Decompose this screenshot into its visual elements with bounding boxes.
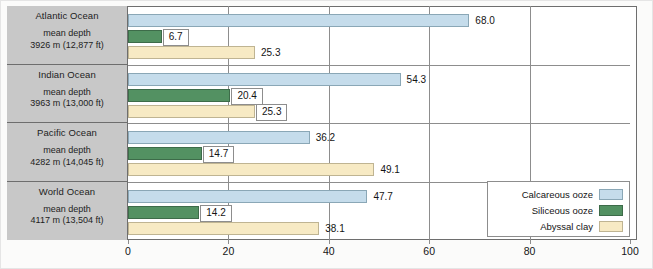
bar-value-label: 68.0 [471,16,494,26]
legend-item-label: Siliceous ooze [532,205,593,216]
mean-depth-label: mean depth [7,87,127,99]
legend-item-label: Calcareous ooze [522,189,593,200]
bar[interactable] [128,190,367,203]
legend-color-swatch [599,205,623,216]
bar-value-label: 20.4 [231,88,262,105]
bar[interactable] [128,30,162,43]
bar-value-label: 47.7 [369,192,392,202]
bar[interactable] [128,222,319,235]
bar[interactable] [128,89,230,102]
bar[interactable] [128,73,401,86]
bar-group: 68.06.725.3 [128,6,630,65]
legend-item[interactable]: Abyssal clay [488,218,623,234]
mean-depth-label: mean depth [7,145,127,157]
bar[interactable] [128,163,374,176]
bar-value-label: 25.3 [257,48,280,58]
mean-depth-value: 3926 m (12,877 ft) [7,40,127,52]
legend-color-swatch [599,189,623,200]
legend-item-label: Abyssal clay [540,221,593,232]
x-tick [128,240,129,244]
legend-color-swatch [599,221,623,232]
category-label-group: Indian Oceanmean depth3963 m (13,000 ft) [7,65,127,124]
bar[interactable] [128,46,255,59]
category-label-group: Pacific Oceanmean depth4282 m (14,045 ft… [7,123,127,182]
mean-depth-label: mean depth [7,204,127,216]
x-tick [630,240,631,244]
ocean-name: World Ocean [7,182,127,197]
bar-value-label: 6.7 [163,29,189,46]
ocean-name: Indian Ocean [7,65,127,80]
x-axis: 020406080100 [128,240,630,260]
bar-value-label: 25.3 [256,104,287,121]
x-tick-label: 40 [323,245,335,257]
mean-depth-block: mean depth3926 m (12,877 ft) [7,28,127,51]
bar[interactable] [128,206,199,219]
mean-depth-value: 4117 m (13,504 ft) [7,215,127,227]
bar-value-label: 36.2 [312,133,335,143]
bar[interactable] [128,14,469,27]
bar-value-label: 49.1 [376,165,399,175]
x-tick-label: 20 [223,245,235,257]
bar-group: 54.320.425.3 [128,65,630,124]
mean-depth-value: 4282 m (14,045 ft) [7,157,127,169]
bar[interactable] [128,131,310,144]
ocean-name: Atlantic Ocean [7,6,127,21]
chart-legend: Calcareous oozeSiliceous oozeAbyssal cla… [487,181,630,237]
mean-depth-block: mean depth4282 m (14,045 ft) [7,145,127,168]
x-tick [429,240,430,244]
bar[interactable] [128,147,202,160]
ocean-name: Pacific Ocean [7,123,127,138]
legend-item[interactable]: Siliceous ooze [488,202,623,218]
x-tick [228,240,229,244]
x-tick-label: 60 [423,245,435,257]
chart-page: Atlantic Oceanmean depth3926 m (12,877 f… [0,0,653,269]
mean-depth-value: 3963 m (13,000 ft) [7,98,127,110]
mean-depth-block: mean depth4117 m (13,504 ft) [7,204,127,227]
x-tick [530,240,531,244]
mean-depth-label: mean depth [7,28,127,40]
bar-value-label: 38.1 [321,224,344,234]
bar[interactable] [128,105,255,118]
x-tick-label: 100 [621,245,639,257]
category-label-group: Atlantic Oceanmean depth3926 m (12,877 f… [7,6,127,65]
x-tick-label: 80 [524,245,536,257]
category-label-group: World Oceanmean depth4117 m (13,504 ft) [7,182,127,241]
mean-depth-block: mean depth3963 m (13,000 ft) [7,87,127,110]
bar-group: 36.214.749.1 [128,123,630,182]
x-tick [329,240,330,244]
bar-value-label: 14.7 [203,146,234,163]
bar-value-label: 14.2 [200,205,231,222]
legend-item[interactable]: Calcareous ooze [488,186,623,202]
x-tick-label: 0 [125,245,131,257]
category-label-column: Atlantic Oceanmean depth3926 m (12,877 f… [7,6,128,240]
bar-value-label: 54.3 [403,75,426,85]
